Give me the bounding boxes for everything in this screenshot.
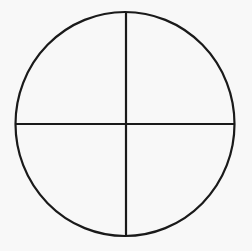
quadrant-circle-diagram xyxy=(0,0,252,251)
